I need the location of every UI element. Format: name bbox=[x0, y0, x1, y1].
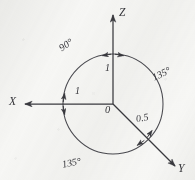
axonometric-diagram bbox=[0, 0, 195, 180]
origin-label: 0 bbox=[105, 105, 110, 116]
dim-x-label: 1 bbox=[75, 86, 80, 96]
dim-z-label: 1 bbox=[105, 63, 110, 73]
y-axis-label: Y bbox=[178, 163, 184, 175]
x-axis-label: X bbox=[9, 96, 16, 108]
diagram-canvas: X Z Y 0 90° 135° 135° 1 1 0.5 bbox=[0, 0, 195, 180]
dim-y-label: 0.5 bbox=[135, 112, 149, 124]
z-axis-label: Z bbox=[119, 7, 125, 19]
